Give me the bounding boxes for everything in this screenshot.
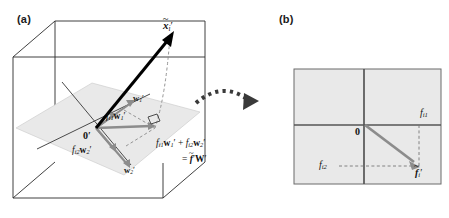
panel-b-origin-label: 0 <box>355 127 360 137</box>
figure-container: (a) (b) <box>0 0 449 218</box>
panel-b-axis-label-fi1: fi1 <box>420 108 428 119</box>
panel-b-score-vector-label: ~fi′ <box>415 168 422 179</box>
panel-b-axis-label-fi2: fi2 <box>319 160 327 171</box>
panel-b-graphics <box>0 0 449 218</box>
